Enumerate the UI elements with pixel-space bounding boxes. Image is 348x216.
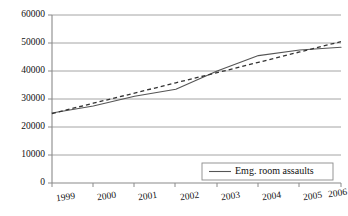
legend-entry-label: Emg. room assaults	[235, 165, 314, 176]
ytick-label-30000: 30000	[21, 93, 45, 103]
ytick-label-0: 0	[40, 177, 45, 187]
ytick-label-60000: 60000	[21, 9, 45, 19]
ytick-label-20000: 20000	[21, 121, 45, 131]
ytick-label-10000: 10000	[21, 149, 45, 159]
chart-container: 60000 50000 40000 30000 20000 10000 0 19…	[0, 0, 348, 216]
legend[interactable]: Emg. room assaults	[202, 163, 333, 180]
ytick-label-40000: 40000	[21, 65, 45, 75]
line-chart: 60000 50000 40000 30000 20000 10000 0 19…	[0, 0, 348, 216]
ytick-label-50000: 50000	[21, 37, 45, 47]
